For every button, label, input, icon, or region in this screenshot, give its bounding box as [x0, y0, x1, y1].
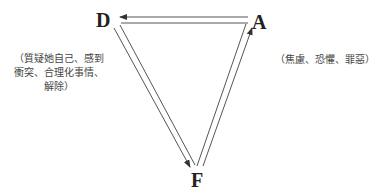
edge-a-to-d	[120, 17, 248, 23]
node-d-label: D	[96, 10, 110, 30]
note-d-line-2: 衝突、合理化事情、	[4, 66, 114, 80]
edge-f-to-a	[197, 24, 252, 166]
note-d-line-1: （質疑她自己、感到	[4, 52, 114, 66]
triangle-edges	[0, 0, 386, 194]
dfa-cycle-diagram: D A F （質疑她自己、感到 衝突、合理化事情、 解除） （焦慮、恐懼、罪惡）	[0, 0, 386, 194]
note-a-line-1: （焦慮、恐懼、罪惡）	[270, 53, 380, 67]
edge-d-to-f	[114, 25, 195, 167]
node-a-label: A	[252, 12, 266, 32]
note-a: （焦慮、恐懼、罪惡）	[270, 53, 380, 67]
note-d-line-3: 解除）	[4, 80, 114, 94]
note-d: （質疑她自己、感到 衝突、合理化事情、 解除）	[4, 52, 114, 94]
node-f-label: F	[191, 170, 203, 190]
